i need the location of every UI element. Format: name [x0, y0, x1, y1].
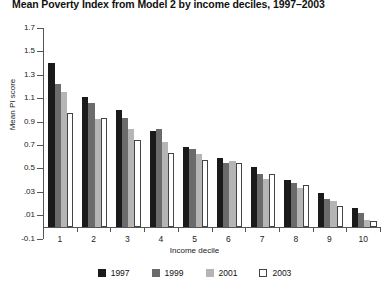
bar-group [116, 28, 141, 227]
bar-group [150, 28, 175, 227]
y-axis-tick-label: 1.7 [1, 23, 35, 32]
legend-item-1997: 1997 [98, 268, 130, 278]
bar-group [48, 28, 73, 227]
x-axis-title: Income decile [0, 246, 389, 255]
y-axis-tick [37, 239, 43, 240]
x-axis-tick-label: 7 [247, 234, 277, 244]
x-axis-tick [144, 227, 145, 232]
y-axis-tick-label: .01 [1, 210, 35, 219]
legend-item-2001: 2001 [206, 268, 238, 278]
x-axis-tick-label: 10 [348, 234, 378, 244]
x-axis-tick [380, 227, 381, 232]
legend-label: 2003 [272, 268, 291, 278]
bar-2003-decile-3 [134, 140, 140, 227]
legend-label: 1999 [165, 268, 184, 278]
x-axis-tick [212, 227, 213, 232]
bar-2003-decile-7 [269, 174, 275, 227]
x-axis-tick-label: 1 [45, 234, 75, 244]
bar-2003-decile-5 [202, 160, 208, 227]
x-axis-tick [110, 227, 111, 232]
x-axis-tick [178, 227, 179, 232]
legend-swatch-icon [259, 269, 267, 277]
x-axis-tick [245, 227, 246, 232]
bar-group [217, 28, 242, 227]
x-axis-tick-label: 5 [180, 234, 210, 244]
legend-swatch-icon [98, 269, 106, 277]
x-axis-tick [279, 227, 280, 232]
plot-area [43, 28, 380, 227]
legend-swatch-icon [206, 269, 214, 277]
y-axis-tick-label: 1.1 [1, 93, 35, 102]
bar-2003-decile-9 [337, 206, 343, 227]
legend-label: 2001 [219, 268, 238, 278]
y-axis-tick-label: .03 [1, 187, 35, 196]
legend-label: 1997 [111, 268, 130, 278]
bar-group [82, 28, 107, 227]
y-axis-tick-label: 1.3 [1, 70, 35, 79]
bar-2003-decile-6 [236, 163, 242, 227]
bar-group [251, 28, 276, 227]
x-axis-tick-label: 4 [146, 234, 176, 244]
x-axis-tick-label: 2 [79, 234, 109, 244]
y-axis-tick-label: 0.9 [1, 117, 35, 126]
y-axis-tick-label: 0.7 [1, 140, 35, 149]
legend-item-1999: 1999 [152, 268, 184, 278]
chart-title: Mean Poverty Index from Model 2 by incom… [12, 0, 382, 10]
x-axis-tick-label: 8 [281, 234, 311, 244]
bar-2003-decile-10 [370, 221, 376, 227]
x-axis-tick-label: 3 [112, 234, 142, 244]
legend-swatch-icon [152, 269, 160, 277]
bar-group [183, 28, 208, 227]
bar-group [318, 28, 343, 227]
x-axis-tick [77, 227, 78, 232]
x-axis-tick [43, 227, 44, 232]
bar-group [284, 28, 309, 227]
bar-2003-decile-8 [303, 185, 309, 227]
y-axis-tick-label: -0.1 [1, 234, 35, 243]
bar-2003-decile-2 [101, 118, 107, 227]
y-axis-tick-label: 0.5 [1, 163, 35, 172]
x-axis-tick [346, 227, 347, 232]
bar-chart: Mean Poverty Index from Model 2 by incom… [0, 0, 389, 294]
x-axis-tick-label: 9 [314, 234, 344, 244]
bar-2003-decile-4 [168, 153, 174, 227]
bar-2003-decile-1 [67, 113, 73, 227]
legend-item-2003: 2003 [259, 268, 291, 278]
bar-group [352, 28, 377, 227]
x-axis-tick [313, 227, 314, 232]
y-axis-tick-label: 1.5 [1, 46, 35, 55]
chart-legend: 1997199920012003 [0, 268, 389, 278]
x-axis-tick-label: 6 [213, 234, 243, 244]
